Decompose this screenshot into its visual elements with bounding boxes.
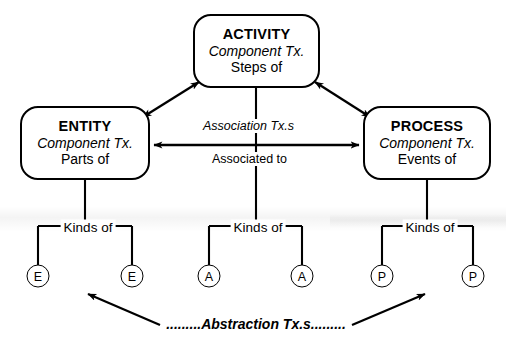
label-abstraction-tx: .........Abstraction Tx.s......... xyxy=(166,316,346,332)
node-process-relation: Events of xyxy=(398,151,456,167)
leaf-process-2[interactable]: P xyxy=(462,265,485,288)
leaf-entity-2[interactable]: E xyxy=(121,265,144,288)
label-kinds-of-activity: Kinds of xyxy=(231,220,286,235)
node-entity[interactable]: ENTITY Component Tx. Parts of xyxy=(20,106,150,180)
node-activity-subtitle: Component Tx. xyxy=(209,43,305,59)
node-entity-subtitle: Component Tx. xyxy=(37,135,133,151)
node-process-subtitle: Component Tx. xyxy=(379,135,475,151)
label-kinds-of-process: Kinds of xyxy=(403,220,458,235)
arrow-abstraction-right xyxy=(352,294,425,325)
node-activity-title: ACTIVITY xyxy=(223,26,291,43)
node-activity-relation: Steps of xyxy=(231,59,282,75)
node-process[interactable]: PROCESS Component Tx. Events of xyxy=(363,106,491,180)
label-kinds-of-entity: Kinds of xyxy=(61,220,116,235)
leaf-activity-2[interactable]: A xyxy=(291,265,314,288)
arrow-entity-activity xyxy=(143,82,199,117)
label-associated-to: Associated to xyxy=(209,152,290,166)
arrow-activity-process xyxy=(315,82,370,117)
node-activity[interactable]: ACTIVITY Component Tx. Steps of xyxy=(193,14,320,88)
arrow-abstraction-left xyxy=(88,294,160,325)
leaf-entity-1[interactable]: E xyxy=(27,265,50,288)
node-entity-relation: Parts of xyxy=(61,151,109,167)
node-process-title: PROCESS xyxy=(391,118,463,135)
diagram-canvas: ACTIVITY Component Tx. Steps of ENTITY C… xyxy=(0,0,506,340)
leaf-activity-1[interactable]: A xyxy=(198,265,221,288)
node-entity-title: ENTITY xyxy=(59,118,112,135)
leaf-process-1[interactable]: P xyxy=(371,265,394,288)
label-association-tx: Association Tx.s xyxy=(200,119,297,133)
